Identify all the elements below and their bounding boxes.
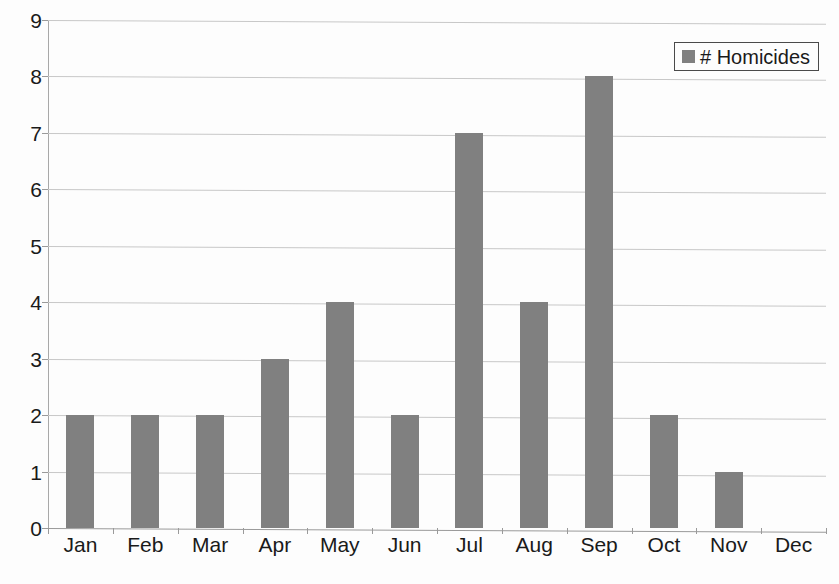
plot-area <box>48 20 826 528</box>
bar[interactable] <box>520 302 548 528</box>
bar-slot <box>502 20 567 528</box>
bar-slot <box>307 20 372 528</box>
bar[interactable] <box>326 302 354 528</box>
x-axis-tick-label: Dec <box>775 534 812 555</box>
bar[interactable] <box>715 472 743 528</box>
y-axis-tick-label: 1 <box>4 461 42 482</box>
bar-slot <box>178 20 243 528</box>
bar-slot <box>372 20 437 528</box>
x-axis-tick-label: Jun <box>388 534 422 555</box>
bars-layer <box>48 20 826 528</box>
bar-chart: 9876543210 JanFebMarAprMayJunJulAugSepOc… <box>0 0 839 584</box>
bar-slot <box>567 20 632 528</box>
y-axis-tick-label: 4 <box>4 292 42 313</box>
x-axis-tickmark <box>826 528 827 534</box>
bar[interactable] <box>650 415 678 528</box>
x-axis-tick-label: Apr <box>259 534 292 555</box>
bar-slot <box>437 20 502 528</box>
x-axis-tick-label: Feb <box>127 534 163 555</box>
square-swatch-icon <box>682 50 695 63</box>
bar[interactable] <box>196 415 224 528</box>
y-axis-tick-label: 9 <box>4 10 42 31</box>
y-axis-tick-label: 8 <box>4 66 42 87</box>
x-axis-tick-label: Oct <box>648 534 681 555</box>
bar[interactable] <box>585 76 613 528</box>
legend-entry-label: # Homicides <box>700 47 810 67</box>
bar-slot <box>696 20 761 528</box>
y-axis-tick-label: 7 <box>4 122 42 143</box>
bar-slot <box>113 20 178 528</box>
y-axis: 9876543210 <box>0 20 42 528</box>
x-axis-tick-label: Nov <box>710 534 747 555</box>
x-axis-tick-label: Jul <box>456 534 483 555</box>
x-axis: JanFebMarAprMayJunJulAugSepOctNovDec <box>48 534 826 574</box>
y-axis-tick-label: 0 <box>4 518 42 539</box>
x-axis-tick-label: May <box>320 534 360 555</box>
bar-slot <box>243 20 308 528</box>
y-axis-tick-label: 3 <box>4 348 42 369</box>
bar[interactable] <box>261 359 289 528</box>
x-axis-tick-label: Mar <box>192 534 228 555</box>
x-axis-tick-label: Aug <box>516 534 553 555</box>
y-axis-tick-label: 2 <box>4 405 42 426</box>
bar[interactable] <box>131 415 159 528</box>
chart-legend[interactable]: # Homicides <box>674 42 819 71</box>
y-axis-tick-label: 6 <box>4 179 42 200</box>
x-axis-tick-label: Sep <box>580 534 617 555</box>
bar[interactable] <box>391 415 419 528</box>
y-axis-tick-label: 5 <box>4 235 42 256</box>
bar[interactable] <box>455 133 483 528</box>
bar-slot <box>48 20 113 528</box>
bar-slot <box>761 20 826 528</box>
x-axis-tick-label: Jan <box>63 534 97 555</box>
bar[interactable] <box>66 415 94 528</box>
bar-slot <box>632 20 697 528</box>
